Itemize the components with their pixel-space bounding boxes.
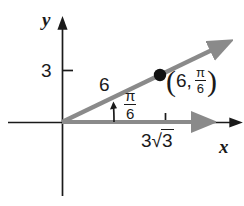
point-r-value: 6 [176,70,187,92]
angle-numerator: π [124,88,136,104]
point-coordinate-label: ( 6 , π 6 ) [166,66,217,95]
plotted-point-dot [154,69,166,81]
x-axis-label: x [219,137,229,156]
angle-label-pi-over-6: π 6 [124,88,136,121]
ray-length-label: 6 [99,75,110,94]
figure-canvas [0,0,244,206]
open-paren: ( [166,69,176,92]
point-comma: , [187,70,192,92]
close-paren: ) [207,69,217,92]
y-axis-label: y [42,10,50,29]
x-tick-label-3root3: 3√3 [141,131,174,150]
point-theta-fraction: π 6 [195,66,206,95]
y-tick-label-3: 3 [41,61,52,80]
point-theta-numerator: π [195,66,206,80]
x-tick-coefficient: 3 [141,130,152,151]
angle-sweep-arrow [114,107,115,122]
point-theta-denominator: 6 [195,80,206,95]
angle-fraction: π 6 [124,88,136,121]
angle-sweep-arrowhead [110,102,117,110]
angle-denominator: 6 [124,104,136,121]
polar-coordinate-figure: y x 3 3√3 6 π 6 ( 6 , π 6 ) [0,0,244,206]
radicand-value: 3 [161,129,174,151]
